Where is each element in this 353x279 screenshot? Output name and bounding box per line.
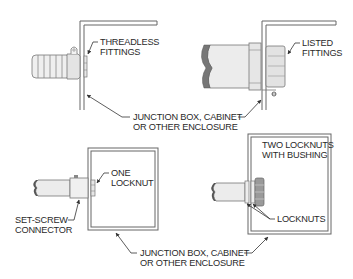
two-locknuts-title-line1: TWO LOCKNUTS	[262, 140, 334, 150]
top-enclosure-label-line2: OR OTHER ENCLOSURE	[133, 122, 238, 132]
set-screw-label-line2: CONNECTOR	[15, 225, 73, 235]
rigid-conduit	[213, 183, 245, 201]
bottom-enclosure-label-line2: OR OTHER ENCLOSURE	[140, 258, 245, 268]
threadless-fitting-body	[67, 54, 80, 79]
listed-leader	[288, 43, 300, 54]
listed-fitting-inner-nut	[266, 46, 285, 87]
listed-label-line1: LISTED	[302, 38, 334, 48]
inner-locknut	[251, 181, 255, 203]
locknuts-label: LOCKNUTS	[277, 214, 326, 224]
enclosure-wall	[80, 21, 157, 110]
two-locknuts-title-line2: WITH BUSHING	[262, 150, 328, 160]
set-screw-panel: ONE LOCKNUT SET-SCREW CONNECTOR	[15, 148, 158, 235]
one-locknut-label-line2: LOCKNUT	[111, 178, 154, 188]
bottom-enclosure-label-line1: JUNCTION BOX, CABINET	[140, 248, 250, 258]
top-enclosure-label-line1: JUNCTION BOX, CABINET	[133, 112, 243, 122]
listed-fitting-panel: LISTED FITTINGS	[201, 21, 342, 110]
flexible-conduit	[32, 55, 70, 78]
threadless-label-line2: FITTINGS	[100, 47, 140, 57]
one-locknut-label-line1: ONE	[111, 168, 130, 178]
threadless-label-line1: THREADLESS	[100, 37, 159, 47]
set-screw-connector-body	[70, 178, 88, 198]
threadless-fitting-panel: THREADLESS FITTINGS	[32, 21, 159, 110]
outer-locknut	[245, 181, 249, 203]
set-screw-label-line1: SET-SCREW	[15, 215, 68, 225]
bottom-enclosure-callout: JUNCTION BOX, CABINET OR OTHER ENCLOSURE	[116, 233, 268, 268]
threadless-leader	[88, 42, 98, 54]
one-locknut	[91, 180, 95, 196]
top-enclosure-callout: JUNCTION BOX, CABINET OR OTHER ENCLOSURE	[87, 95, 261, 132]
rigid-conduit	[201, 45, 250, 88]
conduit-fittings-diagram: THREADLESS FITTINGS LISTED FITTINGS JUNC	[0, 0, 353, 279]
enclosure-box	[88, 148, 158, 230]
listed-label-line2: FITTINGS	[302, 48, 342, 58]
two-locknuts-panel: TWO LOCKNUTS WITH BUSHING LOCKNUTS	[211, 134, 333, 234]
emt-conduit	[35, 180, 70, 196]
